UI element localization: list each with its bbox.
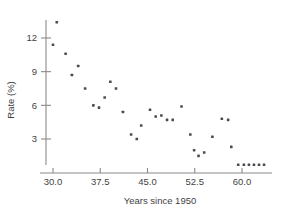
data-point (171, 119, 174, 122)
data-point (154, 115, 157, 118)
y-axis-title: Rate (%) (5, 81, 16, 118)
data-point (103, 96, 106, 99)
data-point (211, 135, 214, 138)
data-point (122, 111, 125, 114)
data-point (130, 133, 133, 136)
y-tick-label: 12 (26, 32, 37, 43)
data-point (135, 138, 138, 141)
data-point (98, 106, 101, 109)
x-tick-label: 30.0 (44, 176, 63, 187)
data-point (149, 109, 152, 112)
data-point (52, 43, 55, 46)
data-point (230, 146, 233, 149)
data-point (77, 65, 80, 68)
data-point (180, 105, 183, 108)
data-point (203, 151, 206, 154)
data-point (92, 104, 95, 107)
x-tick-label: 60.0 (233, 176, 252, 187)
data-point (227, 119, 230, 122)
data-point (140, 124, 143, 127)
data-point (197, 155, 200, 158)
data-point (71, 74, 74, 77)
data-point (160, 114, 163, 117)
data-point (253, 164, 256, 167)
data-point (64, 52, 67, 55)
data-point (84, 87, 87, 90)
y-tick-label: 3 (32, 133, 37, 144)
data-point (221, 118, 224, 121)
data-point (55, 21, 58, 24)
data-point (115, 87, 118, 90)
x-tick-label: 37.5 (91, 176, 110, 187)
data-point (109, 80, 112, 83)
plot-canvas: 30.037.545.052.560.0 36912 Years since 1… (0, 0, 281, 209)
scatter-plot-figure: 30.037.545.052.560.0 36912 Years since 1… (0, 0, 281, 209)
data-point (258, 164, 261, 167)
x-tick-label: 52.5 (186, 176, 205, 187)
data-points-layer (52, 21, 266, 166)
data-point (263, 164, 266, 167)
data-point (248, 164, 251, 167)
data-point (189, 133, 192, 136)
x-axis: 30.037.545.052.560.0 (40, 168, 272, 187)
data-point (237, 164, 240, 167)
data-point (243, 164, 246, 167)
x-tick-label: 45.0 (138, 176, 157, 187)
y-tick-label: 6 (32, 100, 37, 111)
y-tick-label: 9 (32, 66, 37, 77)
data-point (166, 119, 169, 122)
data-point (193, 149, 196, 152)
y-axis: 36912 (26, 20, 51, 165)
x-axis-title: Years since 1950 (124, 195, 197, 206)
